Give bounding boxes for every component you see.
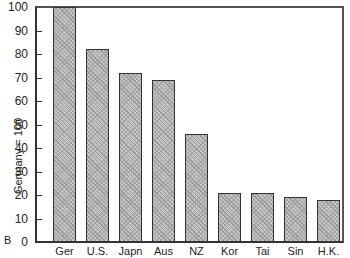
bar-aus bbox=[152, 80, 175, 242]
y-tick-label: 10 bbox=[0, 212, 28, 226]
y-tick-label: 70 bbox=[0, 71, 28, 85]
bar-us bbox=[86, 49, 109, 242]
bar-tai bbox=[251, 193, 274, 242]
y-tick-label: 90 bbox=[0, 24, 28, 38]
bar-ger bbox=[53, 7, 76, 242]
y-tick-mark bbox=[35, 125, 42, 126]
y-tick-label: 60 bbox=[0, 94, 28, 108]
bar-japn bbox=[119, 73, 142, 242]
x-tick-label: H.K. bbox=[309, 245, 349, 257]
bar-kor bbox=[218, 193, 241, 242]
bar-chart: 0102030405060708090100 GerU.S.JapnAusNZK… bbox=[0, 0, 350, 258]
bar-sin bbox=[284, 197, 307, 242]
y-tick-mark bbox=[35, 78, 42, 79]
y-tick-mark bbox=[35, 54, 42, 55]
y-tick-mark bbox=[35, 101, 42, 102]
y-tick-mark bbox=[35, 219, 42, 220]
bar-hk bbox=[317, 200, 340, 242]
y-tick-label: 80 bbox=[0, 47, 28, 61]
y-tick-mark bbox=[35, 172, 42, 173]
y-tick-mark bbox=[35, 31, 42, 32]
y-axis-label: Germany = 100 bbox=[12, 116, 24, 196]
panel-label: B bbox=[4, 234, 11, 246]
bar-nz bbox=[185, 134, 208, 242]
y-tick-mark bbox=[35, 195, 42, 196]
y-tick-mark bbox=[35, 148, 42, 149]
y-tick-label: 100 bbox=[0, 0, 28, 14]
